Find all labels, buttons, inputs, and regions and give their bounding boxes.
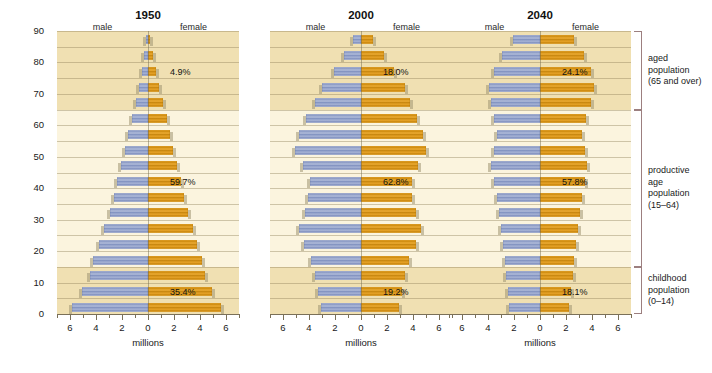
bracket-label-line: (65 and over) [648, 76, 712, 88]
center-axis-1950 [148, 31, 149, 314]
bar-male [139, 83, 148, 92]
bar-female [148, 67, 156, 76]
bar-shadow-male [312, 273, 315, 282]
bar-shadow-male [129, 116, 132, 125]
bar-shadow-male [107, 210, 110, 219]
bar-shadow-female [202, 258, 205, 267]
bar-male [90, 271, 148, 280]
bar-shadow-male [488, 100, 491, 109]
bar-shadow-female [159, 85, 162, 94]
x-axis-tick [239, 314, 240, 318]
x-axis-tick [270, 314, 271, 318]
bar-female [540, 271, 573, 280]
bracket-label-line: childhood [648, 273, 712, 285]
label-male-2000: male [286, 22, 346, 32]
x-axis-tick-label: 2 [325, 322, 345, 333]
bar-male [491, 98, 540, 107]
bar-male [128, 130, 148, 139]
bar-male [489, 83, 540, 92]
bar-shadow-male [125, 132, 128, 141]
x-axis-tick [361, 314, 362, 320]
x-axis-tick-label: 0 [138, 322, 158, 333]
bar-male [494, 67, 540, 76]
bar-male [497, 193, 540, 202]
bar-shadow-male [491, 179, 494, 188]
bar-shadow-female [188, 210, 191, 219]
bar-shadow-female [405, 85, 408, 94]
bar-shadow-male [331, 69, 334, 78]
x-axis-tick [174, 314, 175, 320]
bar-female [361, 208, 416, 217]
x-axis-tick [213, 314, 214, 318]
bar-shadow-male [143, 37, 146, 46]
bar-shadow-male [96, 242, 99, 251]
bar-shadow-male [318, 305, 321, 314]
bar-shadow-male [510, 37, 513, 46]
bar-shadow-female [410, 100, 413, 109]
plot-area-2040 [449, 31, 631, 314]
bar-shadow-female [197, 242, 200, 251]
x-axis-tick-label: 6 [273, 322, 293, 333]
bar-male [499, 208, 540, 217]
x-axis-tick [322, 314, 323, 318]
bar-female [148, 240, 197, 249]
bar-female [148, 83, 159, 92]
bar-male [509, 303, 540, 312]
bar-male [502, 51, 540, 60]
bar-male [117, 177, 148, 186]
bracket-label-line: population [648, 65, 712, 77]
x-axis-tick [122, 314, 123, 320]
bar-male [114, 193, 148, 202]
bar-shadow-male [300, 163, 303, 172]
bar-shadow-female [582, 195, 585, 204]
bar-shadow-male [133, 100, 136, 109]
bar-female [148, 146, 173, 155]
bar-shadow-male [69, 305, 72, 314]
bar-male [310, 177, 361, 186]
bar-shadow-female [426, 148, 429, 157]
bar-female [361, 256, 409, 265]
bar-shadow-female [167, 116, 170, 125]
x-axis-tick [309, 314, 310, 320]
bar-shadow-female [205, 273, 208, 282]
bar-female [540, 146, 585, 155]
bar-male [494, 177, 540, 186]
bar-male [315, 271, 361, 280]
bar-shadow-male [350, 37, 353, 46]
bar-male [494, 114, 540, 123]
bar-shadow-female [409, 258, 412, 267]
percent-label-childhood: 18.1% [562, 287, 588, 297]
bar-shadow-male [308, 258, 311, 267]
bar-shadow-female [569, 305, 572, 314]
bar-shadow-male [506, 305, 509, 314]
label-female-1950: female [164, 22, 224, 32]
bar-shadow-male [305, 195, 308, 204]
bar-female [540, 130, 582, 139]
x-axis-tick [387, 314, 388, 320]
percent-label-productive: 57.8% [562, 177, 588, 187]
x-axis-unit-1950: millions [103, 337, 193, 348]
x-axis-tick [283, 314, 284, 320]
bar-shadow-female [150, 37, 153, 46]
bar-female [361, 303, 399, 312]
panel-1950 [57, 31, 239, 314]
bar-shadow-female [576, 242, 579, 251]
bar-female [148, 224, 193, 233]
plot-area-2000 [270, 31, 452, 314]
bar-shadow-male [503, 273, 506, 282]
x-axis-tick [514, 314, 515, 320]
bar-shadow-female [373, 37, 376, 46]
bar-shadow-female [584, 53, 587, 62]
bar-male [132, 114, 148, 123]
x-axis-tick [226, 314, 227, 320]
x-axis-tick-label: 4 [403, 322, 423, 333]
x-axis-tick [135, 314, 136, 318]
x-axis-tick-label: 6 [452, 322, 472, 333]
bar-shadow-female [163, 100, 166, 109]
bar-male [491, 161, 540, 170]
bracket-aged [634, 31, 642, 110]
x-axis-tick [527, 314, 528, 318]
bar-female [148, 271, 205, 280]
bracket-childhood [634, 267, 642, 314]
percent-label-aged: 18.0% [383, 67, 409, 77]
